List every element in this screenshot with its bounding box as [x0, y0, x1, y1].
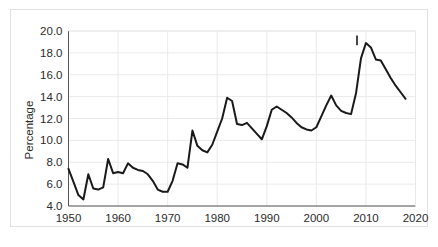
- x-tick-label: 1960: [105, 212, 131, 224]
- y-axis-title: Percentage: [23, 101, 35, 160]
- y-tick-label: 8.0: [47, 156, 63, 168]
- x-tick-label: 2000: [304, 212, 330, 224]
- y-tick-label: 4.0: [47, 200, 63, 212]
- y-tick-label: 18.0: [40, 47, 62, 59]
- x-tick-label: 1970: [155, 212, 181, 224]
- y-tick-label: 10.0: [40, 134, 62, 146]
- y-tick-label: 20.0: [40, 25, 62, 37]
- y-tick-label: 16.0: [40, 69, 62, 81]
- x-tick-label: 1950: [56, 212, 82, 224]
- y-tick-label: 14.0: [40, 91, 62, 103]
- gridlines-group: [69, 31, 416, 206]
- y-axis-title-text: Percentage: [23, 101, 35, 160]
- y-tick-label: 12.0: [40, 113, 62, 125]
- x-tick-label: 1990: [254, 212, 280, 224]
- x-tick-label: 2010: [353, 212, 379, 224]
- caption-ghost-text: [14, 231, 414, 243]
- x-tick-label: 2020: [403, 212, 429, 224]
- data-series-line[interactable]: [69, 43, 406, 199]
- y-tick-label: 6.0: [47, 178, 63, 190]
- series-line-percentage[interactable]: [69, 43, 406, 199]
- figure-container: 4.06.08.010.012.014.016.018.020.0 195019…: [0, 0, 438, 247]
- y-axis-tick-labels: 4.06.08.010.012.014.016.018.020.0: [40, 25, 62, 212]
- line-chart[interactable]: 4.06.08.010.012.014.016.018.020.0 195019…: [0, 0, 438, 247]
- x-axis-tick-labels: 19501960197019801990200020102020: [56, 212, 429, 224]
- x-tick-label: 1980: [204, 212, 230, 224]
